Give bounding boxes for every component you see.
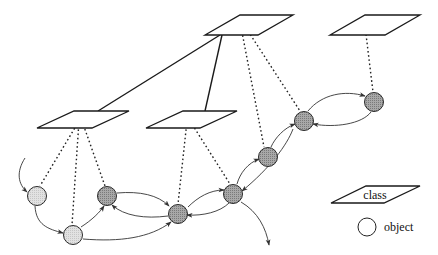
class-left xyxy=(37,111,129,128)
object-o1 xyxy=(28,187,47,206)
object-o4 xyxy=(169,205,188,224)
class-right xyxy=(330,15,420,35)
class-top xyxy=(205,15,293,35)
object-o5 xyxy=(224,185,243,204)
legend-class-label: class xyxy=(363,188,387,202)
class-object-diagram: class object xyxy=(0,0,438,255)
legend-object-shape xyxy=(358,218,376,236)
object-o6 xyxy=(259,148,278,167)
inheritance-left-to-top xyxy=(98,35,220,111)
object-o8 xyxy=(365,93,384,112)
object-o2 xyxy=(64,226,83,245)
inheritance-middle-to-top xyxy=(205,35,222,111)
object-o7 xyxy=(295,112,314,131)
object-o3 xyxy=(98,187,117,206)
class-middle xyxy=(146,111,237,128)
legend: class object xyxy=(331,186,420,236)
inheritance-links xyxy=(98,35,222,111)
legend-object-label: object xyxy=(384,220,414,234)
